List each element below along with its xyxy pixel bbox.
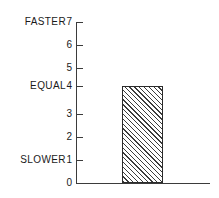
y-axis-tick-label-6: 6	[66, 40, 72, 50]
x-axis-line	[76, 183, 210, 184]
bar-series-0	[122, 86, 163, 183]
y-axis-category-label-slower: SLOWER	[20, 155, 66, 165]
y-axis-tick-7	[77, 22, 83, 23]
y-axis-tick-5	[77, 68, 83, 69]
y-axis-tick-label-1: 1	[66, 155, 72, 165]
y-axis-tick-6	[77, 45, 83, 46]
y-axis-tick-0	[77, 183, 83, 184]
y-axis-tick-label-0: 0	[66, 178, 72, 188]
y-axis-category-label-faster: FASTER	[25, 17, 66, 27]
bar-chart: 7 6 5 4 3 2 1 0 FASTER EQUAL SLOWER	[0, 0, 219, 198]
y-axis-tick-label-3: 3	[66, 109, 72, 119]
y-axis-tick-1	[77, 160, 83, 161]
y-axis-tick-3	[77, 114, 83, 115]
y-axis-tick-4	[77, 86, 83, 87]
y-axis-tick-2	[77, 137, 83, 138]
y-axis-tick-label-4: 4	[66, 81, 72, 91]
y-axis-tick-label-2: 2	[66, 132, 72, 142]
y-axis-category-label-equal: EQUAL	[30, 81, 66, 91]
y-axis-tick-label-5: 5	[66, 63, 72, 73]
y-axis-tick-label-7: 7	[66, 17, 72, 27]
